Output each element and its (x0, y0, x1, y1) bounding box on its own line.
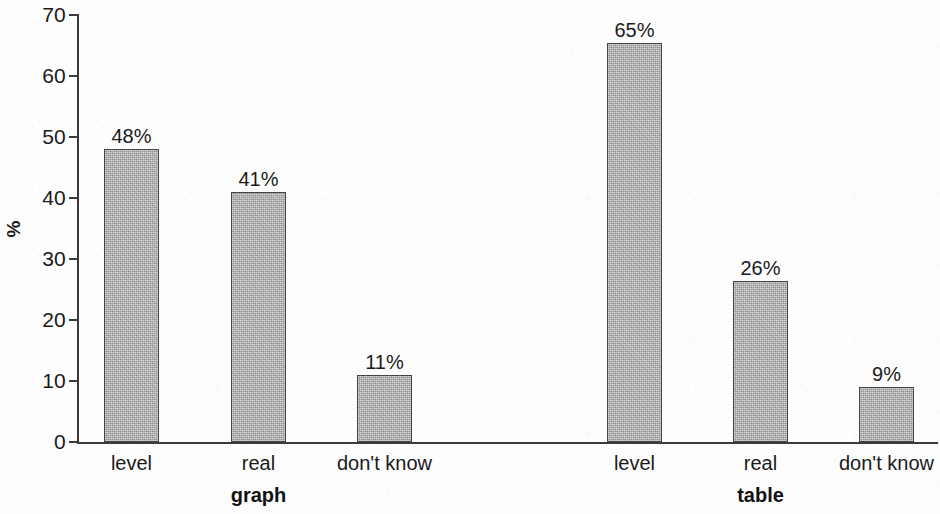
bar-value-table-dont-know: 9% (839, 364, 934, 384)
y-tick-40 (69, 197, 77, 199)
y-tick-label-10: 10 (6, 370, 66, 391)
y-tick-30 (69, 258, 77, 260)
y-tick-0 (69, 441, 77, 443)
y-tick-label-50: 50 (6, 126, 66, 147)
y-tick-70 (69, 14, 77, 16)
bar-table-level (607, 43, 662, 442)
y-tick-60 (69, 75, 77, 77)
x-axis-line (77, 442, 938, 444)
y-axis-line (77, 14, 79, 444)
bar-table-dont-know (859, 387, 914, 442)
y-tick-label-30: 30 (6, 248, 66, 269)
bar-graph-real (231, 192, 286, 442)
bar-value-table-real: 26% (713, 258, 808, 278)
category-label-table-real: real (713, 452, 808, 474)
category-label-table-level: level (587, 452, 682, 474)
bar-graph-level (104, 149, 159, 442)
group-label-table: table (688, 484, 833, 506)
plot-area: % 70 60 50 40 30 20 10 0 48% level 41% r… (0, 0, 940, 514)
category-label-graph-dont-know: don't know (312, 452, 457, 474)
y-tick-20 (69, 319, 77, 321)
y-tick-label-60: 60 (6, 65, 66, 86)
category-label-graph-real: real (211, 452, 306, 474)
group-label-graph: graph (186, 484, 331, 506)
bar-table-real (733, 281, 788, 442)
category-label-table-dont-know: don't know (814, 452, 940, 474)
category-label-graph-level: level (84, 452, 179, 474)
bar-value-graph-real: 41% (211, 169, 306, 189)
bar-value-table-level: 65% (587, 20, 682, 40)
y-tick-label-0: 0 (6, 431, 66, 452)
y-tick-label-20: 20 (6, 309, 66, 330)
bar-value-graph-dont-know: 11% (337, 352, 432, 372)
y-tick-10 (69, 380, 77, 382)
bar-value-graph-level: 48% (84, 126, 179, 146)
bar-chart-figure: % 70 60 50 40 30 20 10 0 48% level 41% r… (0, 0, 940, 514)
y-tick-label-70: 70 (6, 4, 66, 25)
y-tick-50 (69, 136, 77, 138)
y-tick-label-40: 40 (6, 187, 66, 208)
bar-graph-dont-know (357, 375, 412, 442)
